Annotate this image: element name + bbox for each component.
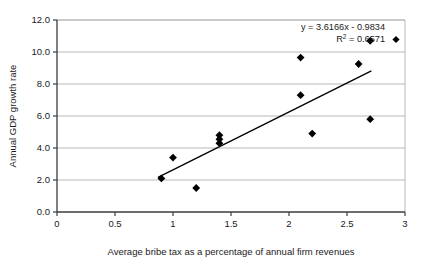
scatter-chart: 0.02.04.06.08.010.012.0 00.511.522.53 An… <box>0 0 427 271</box>
equation-text: y = 3.6166x - 0.9834 <box>301 22 385 32</box>
x-tick-label: 2 <box>286 218 291 229</box>
y-axis-title: Annual GDP growth rate <box>7 65 18 168</box>
y-tick-label: 2.0 <box>37 174 50 185</box>
y-tick-label: 12.0 <box>32 14 51 25</box>
x-tick-label: 1.5 <box>224 218 237 229</box>
x-tick-label: 1 <box>170 218 175 229</box>
x-tick-label: 0 <box>54 218 59 229</box>
y-tick-label: 6.0 <box>37 110 50 121</box>
x-tick-label: 3 <box>402 218 407 229</box>
x-tick-label: 2.5 <box>340 218 353 229</box>
x-axis-title: Average bribe tax as a percentage of ann… <box>108 246 355 257</box>
y-tick-label: 4.0 <box>37 142 50 153</box>
chart-canvas: 0.02.04.06.08.010.012.0 00.511.522.53 An… <box>0 0 427 271</box>
y-tick-label: 8.0 <box>37 78 50 89</box>
y-tick-label: 0.0 <box>37 206 50 217</box>
x-tick-label: 0.5 <box>108 218 121 229</box>
y-tick-label: 10.0 <box>32 46 51 57</box>
